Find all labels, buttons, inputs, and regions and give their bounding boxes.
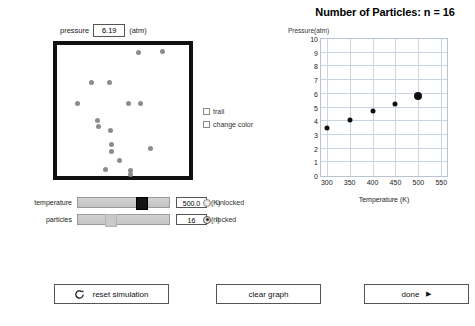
graph-y-axis-label: Pressure(atm) — [288, 27, 329, 34]
data-point — [324, 125, 329, 130]
slider-controls: temperature500.0(K)particles16(n) — [22, 196, 225, 230]
gas-particle — [95, 118, 100, 123]
clear-graph-label: clear graph — [248, 290, 288, 299]
display-options-group: trailchange color — [203, 108, 253, 134]
slider-thumb-temperature[interactable] — [136, 197, 148, 210]
gridline-vertical — [327, 39, 328, 176]
gas-particle — [109, 149, 114, 154]
y-axis-tick-label: 5 — [314, 104, 318, 111]
data-point — [370, 109, 375, 114]
gridline-horizontal — [321, 65, 447, 66]
gridline-vertical — [395, 39, 396, 176]
checkbox-label: change color — [213, 121, 253, 128]
pressure-units-label: (atm) — [129, 26, 147, 35]
gas-particle — [89, 80, 94, 85]
gridline-horizontal — [321, 79, 447, 80]
checkbox-change-color[interactable]: change color — [203, 121, 253, 128]
done-label: done — [402, 290, 420, 299]
y-axis-tick-label: 8 — [314, 63, 318, 70]
y-axis-tick-label: 1 — [314, 159, 318, 166]
gridline-vertical — [373, 39, 374, 176]
y-axis-tick-label: 0 — [314, 173, 318, 180]
gridline-horizontal — [321, 52, 447, 53]
gridline-vertical — [350, 39, 351, 176]
play-arrow-icon: ▶ — [426, 290, 431, 298]
lock-radio-group: unlockedlocked — [203, 196, 244, 230]
checkbox-icon[interactable] — [203, 121, 210, 128]
x-axis-tick-label: 350 — [344, 179, 356, 186]
gas-particle — [96, 124, 101, 129]
pressure-value-field: 6.19 — [93, 24, 125, 37]
slider-row-particles: particles16(n) — [22, 213, 225, 226]
gridline-horizontal — [321, 93, 447, 94]
x-axis-tick-label: 450 — [390, 179, 402, 186]
slider-row-temperature: temperature500.0(K) — [22, 196, 225, 209]
particle-field — [57, 45, 189, 176]
y-axis-tick-label: 2 — [314, 145, 318, 152]
reset-simulation-button[interactable]: reset simulation — [54, 284, 169, 304]
pressure-label: pressure — [60, 26, 89, 35]
x-axis-tick-label: 500 — [413, 179, 425, 186]
gas-particle — [117, 158, 122, 163]
reset-simulation-label: reset simulation — [92, 290, 148, 299]
gridline-horizontal — [321, 134, 447, 135]
particle-simulation-box[interactable] — [53, 41, 193, 180]
gas-particle — [75, 101, 80, 106]
radio-label: locked — [216, 216, 236, 223]
gas-particle — [107, 80, 112, 85]
y-axis-tick-label: 7 — [314, 77, 318, 84]
slider-thumb-particles[interactable] — [105, 214, 117, 227]
gridline-horizontal — [321, 120, 447, 121]
x-axis-tick-label: 400 — [367, 179, 379, 186]
page-title: Number of Particles: n = 16 — [300, 6, 470, 18]
x-axis-tick-label: 300 — [321, 179, 333, 186]
gas-particle — [103, 167, 108, 172]
data-point — [393, 101, 398, 106]
gridline-vertical — [418, 39, 419, 176]
graph-x-axis-label: Temperature (K) — [320, 196, 448, 203]
data-point — [347, 118, 352, 123]
radio-locked[interactable]: locked — [203, 213, 244, 226]
checkbox-icon[interactable] — [203, 108, 210, 115]
gridline-horizontal — [321, 161, 447, 162]
y-axis-tick-label: 6 — [314, 90, 318, 97]
clear-graph-button[interactable]: clear graph — [216, 284, 321, 304]
x-axis-tick-label: 550 — [435, 179, 447, 186]
radio-label: unlocked — [216, 199, 244, 206]
checkbox-trail[interactable]: trail — [203, 108, 253, 115]
radio-unlocked[interactable]: unlocked — [203, 196, 244, 209]
gridline-horizontal — [321, 107, 447, 108]
gas-particle — [126, 101, 131, 106]
data-point — [414, 92, 422, 100]
gas-particle — [138, 101, 143, 106]
reset-circular-arrow-icon — [74, 289, 85, 300]
radio-icon[interactable] — [203, 199, 211, 207]
slider-label-particles: particles — [22, 216, 77, 223]
pressure-temperature-graph: 300350400450500550012345678910 — [320, 38, 448, 177]
plot-area: 300350400450500550012345678910 — [320, 38, 448, 177]
gas-particle — [109, 142, 114, 147]
radio-icon[interactable] — [203, 216, 211, 224]
y-axis-tick-label: 9 — [314, 49, 318, 56]
y-axis-tick-label: 4 — [314, 118, 318, 125]
slider-track-temperature[interactable] — [77, 197, 170, 208]
pressure-readout: pressure 6.19 (atm) — [60, 24, 147, 37]
y-axis-tick-label: 3 — [314, 131, 318, 138]
gas-particle — [108, 128, 113, 133]
checkbox-label: trail — [213, 108, 224, 115]
done-button[interactable]: done ▶ — [364, 284, 469, 304]
gridline-vertical — [441, 39, 442, 176]
gas-particle — [136, 50, 141, 55]
y-axis-tick-label: 10 — [310, 36, 318, 43]
gridline-horizontal — [321, 148, 447, 149]
slider-track-particles[interactable] — [77, 214, 170, 225]
gas-particle — [128, 172, 133, 177]
gas-particle — [148, 146, 153, 151]
slider-label-temperature: temperature — [22, 199, 77, 206]
gas-particle — [160, 49, 165, 54]
button-bar: reset simulation clear graph done ▶ — [0, 284, 475, 308]
